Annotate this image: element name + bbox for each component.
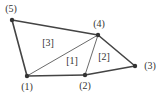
edge-2-1	[27, 75, 85, 76]
node-1-dot	[25, 74, 29, 78]
edge-5-4	[12, 20, 98, 35]
element-1-label: [1]	[66, 55, 78, 66]
edge-1-4	[27, 35, 98, 76]
node-1-label: (1)	[21, 81, 33, 93]
node-2-dot	[83, 73, 87, 77]
edge-1-5	[12, 20, 27, 76]
node-5-label: (5)	[5, 3, 17, 15]
labels-group: (1)(2)(3)(4)(5)[1][2][3]	[5, 3, 156, 93]
edge-3-2	[85, 66, 135, 75]
node-4-dot	[96, 33, 100, 37]
element-2-label: [2]	[98, 51, 110, 62]
mesh-canvas: (1)(2)(3)(4)(5)[1][2][3]	[0, 0, 161, 95]
node-4-label: (4)	[93, 18, 105, 30]
node-2-label: (2)	[79, 80, 91, 92]
element-3-label: [3]	[42, 37, 54, 48]
node-3-label: (3)	[144, 60, 156, 72]
edges-group	[12, 20, 135, 76]
node-5-dot	[10, 18, 14, 22]
node-3-dot	[133, 64, 137, 68]
mesh-diagram: (1)(2)(3)(4)(5)[1][2][3]	[0, 0, 161, 95]
